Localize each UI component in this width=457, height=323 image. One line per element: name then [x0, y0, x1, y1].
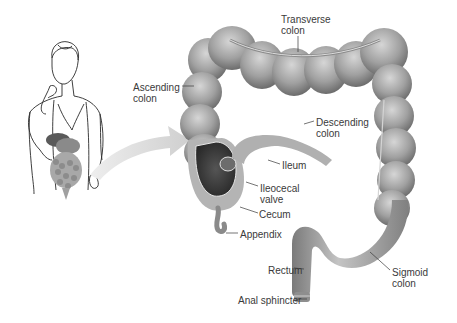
label-rectum: Rectum [268, 265, 302, 276]
label-cecum: Cecum [259, 209, 291, 220]
label-ascending-colon: Ascending colon [133, 82, 180, 104]
label-ileocecal-valve: Ileocecal valve [260, 183, 299, 205]
label-transverse-colon: Transverse colon [281, 14, 331, 36]
large-intestine-diagram: Transverse colon Ascending colon Descend… [0, 0, 457, 323]
label-descending-colon: Descending colon [316, 117, 369, 139]
sigmoid-rectum-shape [292, 200, 408, 302]
label-anal-sphincter: Anal sphincter [238, 295, 301, 306]
label-sigmoid-colon: Sigmoid colon [392, 267, 428, 289]
pointer-arrow [90, 126, 190, 180]
label-ileum: Ileum [282, 160, 306, 171]
label-appendix: Appendix [240, 229, 282, 240]
figure-organs [46, 133, 82, 200]
diagram-artwork [0, 0, 457, 323]
